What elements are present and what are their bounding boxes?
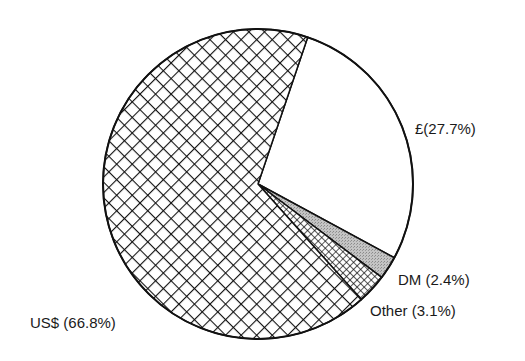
slice-label-pound: £(27.7%) (415, 121, 476, 136)
slice-label-usd: US$ (66.8%) (30, 315, 116, 330)
slice-label-dm: DM (2.4%) (398, 272, 470, 287)
pie-slices (103, 29, 413, 339)
slice-label-other: Other (3.1%) (370, 303, 456, 318)
